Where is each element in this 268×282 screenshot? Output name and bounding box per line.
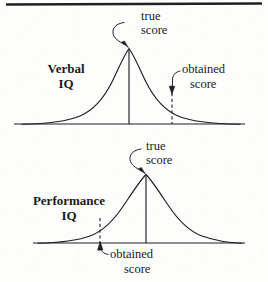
distribution-label-line1-performance: Performance: [33, 193, 105, 208]
obtained-score-arrowhead-verbal: [169, 86, 175, 95]
true-score-label-line1-verbal: true: [141, 9, 161, 23]
iq-distribution-figure: true score obtained score Verbal IQ: [0, 0, 268, 282]
distribution-label-line2-verbal: IQ: [58, 76, 73, 91]
true-score-arrowhead-performance: [138, 168, 145, 175]
obtained-score-label-line2-performance: score: [124, 262, 151, 276]
distribution-label-line1-verbal: Verbal: [47, 61, 84, 76]
true-score-label-line2-performance: score: [146, 153, 173, 167]
true-score-label-line1-performance: true: [146, 139, 166, 153]
true-score-arrowhead-verbal: [121, 41, 128, 48]
top-horizontal-rule: [6, 4, 262, 5]
obtained-score-label-line1-performance: obtained: [110, 247, 154, 261]
true-score-arrow-curve-verbal: [113, 23, 124, 45]
panel-verbal-iq: true score obtained score Verbal IQ: [14, 9, 245, 124]
figure-page: true score obtained score Verbal IQ: [0, 0, 268, 282]
true-score-label-line2-verbal: score: [141, 23, 168, 37]
distribution-label-line2-performance: IQ: [61, 208, 76, 223]
obtained-score-label-line2-verbal: score: [190, 77, 217, 91]
true-score-arrow-curve-performance: [130, 149, 141, 171]
obtained-score-label-line1-verbal: obtained: [182, 62, 226, 76]
panel-performance-iq: true score obtained score Performance IQ: [33, 139, 245, 276]
